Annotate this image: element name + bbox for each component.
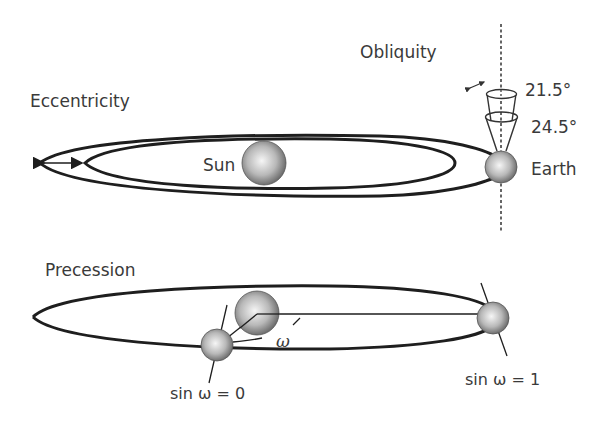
sun-sphere [242, 141, 286, 185]
omega-angle-arc [233, 338, 262, 342]
omega-angle-tick [293, 318, 300, 325]
eccentricity-label: Eccentricity [30, 91, 130, 111]
sun-label: Sun [203, 155, 235, 175]
sin-omega-one-label: sin ω = 1 [465, 370, 540, 389]
tilt-rotation-arrow [470, 82, 484, 88]
sin-omega-zero-label: sin ω = 0 [170, 384, 245, 403]
earth-sphere-sin-one [477, 302, 509, 334]
omega-label: ω [276, 331, 290, 351]
tilt-min-label: 21.5° [525, 80, 571, 100]
earth-label: Earth [531, 159, 577, 179]
precession-panel [33, 283, 509, 383]
obliquity-cone-21-5 [487, 90, 517, 122]
precession-label: Precession [45, 260, 135, 280]
earth-sphere-sin-zero [201, 329, 233, 361]
sun-sphere-bottom [235, 291, 279, 335]
obliquity-panel [470, 24, 518, 232]
tilt-max-label: 24.5° [531, 117, 577, 137]
eccentricity-panel [40, 135, 500, 196]
earth-sphere-top [485, 151, 517, 183]
orbital-parameters-diagram: Eccentricity Obliquity Sun Earth 21.5° 2… [0, 0, 598, 432]
obliquity-label: Obliquity [360, 42, 437, 62]
